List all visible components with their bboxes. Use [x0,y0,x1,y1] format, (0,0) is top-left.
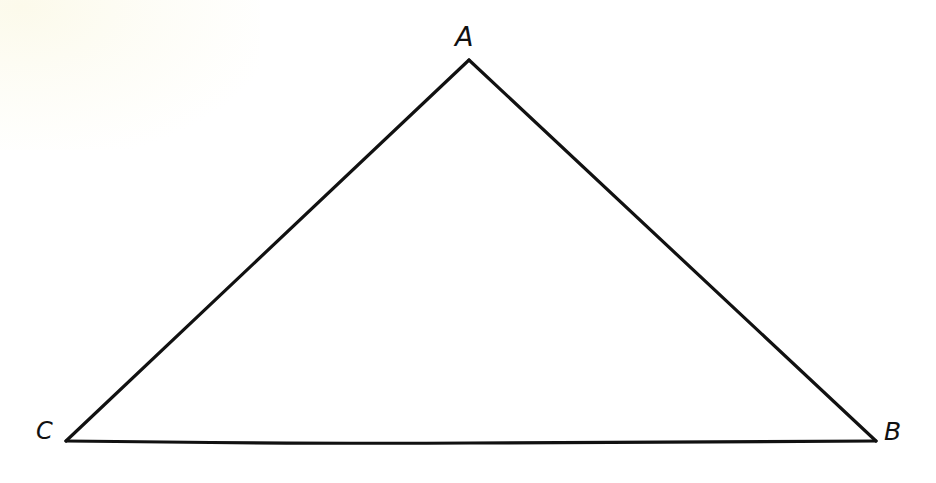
vertex-label-b: B [884,419,901,444]
triangle-side-bc [66,441,876,443]
triangle-drawing [0,0,936,483]
vertex-label-c: C [36,419,53,443]
triangle-side-ab [469,60,876,441]
figure-canvas: A C B [0,0,936,483]
vertex-label-a: A [455,23,473,50]
triangle-side-ca [66,60,469,441]
